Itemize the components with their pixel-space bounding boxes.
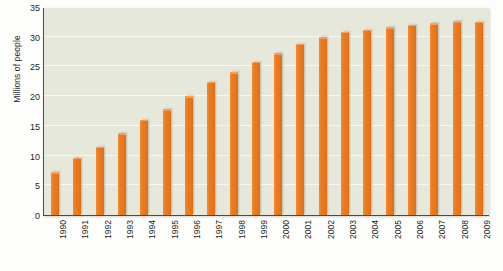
bar-slot — [111, 7, 133, 215]
bar-slot — [223, 7, 245, 215]
x-tick-label: 2007 — [437, 220, 447, 260]
bar-slot — [334, 7, 356, 215]
y-tick-label: 5 — [18, 181, 40, 191]
bar-slot — [401, 7, 423, 215]
bar-slot — [312, 7, 334, 215]
x-tick-label: 2003 — [348, 220, 358, 260]
y-axis-tick-labels: 05101520253035 — [18, 0, 40, 225]
bar-slot — [379, 7, 401, 215]
bar[interactable] — [408, 25, 416, 215]
bar[interactable] — [163, 109, 171, 215]
x-tick-label: 1994 — [147, 220, 157, 260]
bar[interactable] — [118, 133, 126, 215]
y-tick-label: 15 — [18, 122, 40, 132]
bar[interactable] — [363, 30, 371, 215]
bar[interactable] — [274, 53, 282, 215]
bar[interactable] — [51, 172, 59, 215]
bar-slot — [446, 7, 468, 215]
x-tick-label: 2002 — [326, 220, 336, 260]
bar-slot — [245, 7, 267, 215]
x-tick-label: 1990 — [58, 220, 68, 260]
x-tick-label: 1992 — [103, 220, 113, 260]
bar[interactable] — [73, 158, 81, 215]
y-tick-label: 25 — [18, 62, 40, 72]
bars-layer — [44, 8, 489, 215]
y-tick-label: 30 — [18, 33, 40, 43]
x-tick-label: 2004 — [370, 220, 380, 260]
bar-slot — [423, 7, 445, 215]
bar[interactable] — [341, 32, 349, 215]
y-tick-label: 35 — [18, 3, 40, 13]
bar-slot — [156, 7, 178, 215]
y-tick-label: 0 — [18, 211, 40, 221]
x-tick-label: 1991 — [80, 220, 90, 260]
bar-slot — [44, 7, 66, 215]
bar-slot — [133, 7, 155, 215]
x-tick-label: 1995 — [170, 220, 180, 260]
bar-slot — [468, 7, 490, 215]
bar-slot — [89, 7, 111, 215]
bar-slot — [289, 7, 311, 215]
bar-slot — [356, 7, 378, 215]
bar-slot — [267, 7, 289, 215]
bar[interactable] — [296, 44, 304, 215]
x-tick-label: 1997 — [214, 220, 224, 260]
x-tick-label: 2009 — [482, 220, 492, 260]
y-tick-label: 10 — [18, 152, 40, 162]
x-tick-label: 2000 — [281, 220, 291, 260]
x-tick-label: 1996 — [192, 220, 202, 260]
bar[interactable] — [207, 82, 215, 215]
bar[interactable] — [140, 120, 148, 215]
bar[interactable] — [475, 22, 483, 215]
x-tick-label: 1998 — [237, 220, 247, 260]
bar-slot — [178, 7, 200, 215]
x-tick-label: 2005 — [393, 220, 403, 260]
bar[interactable] — [252, 62, 260, 215]
bar[interactable] — [96, 147, 104, 215]
x-tick-label: 2001 — [303, 220, 313, 260]
y-tick-label: 20 — [18, 92, 40, 102]
bar[interactable] — [430, 23, 438, 215]
bar[interactable] — [386, 27, 394, 215]
bar[interactable] — [453, 21, 461, 215]
plot-area — [43, 8, 489, 216]
bar-chart: Millions of people 05101520253035 199019… — [0, 0, 503, 271]
bar-slot — [66, 7, 88, 215]
bar[interactable] — [230, 72, 238, 215]
bar[interactable] — [185, 96, 193, 215]
bar-slot — [200, 7, 222, 215]
bar[interactable] — [319, 37, 327, 215]
x-axis-tick-labels: 1990199119921993199419951996199719981999… — [43, 218, 489, 270]
x-tick-label: 1993 — [125, 220, 135, 260]
x-tick-label: 1999 — [259, 220, 269, 260]
x-tick-label: 2006 — [415, 220, 425, 260]
x-tick-label: 2008 — [460, 220, 470, 260]
